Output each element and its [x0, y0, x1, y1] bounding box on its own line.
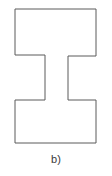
i-beam-outline	[15, 9, 96, 143]
figure-caption-label: b)	[0, 152, 112, 166]
figure-panel: b)	[0, 0, 112, 176]
i-beam-shape-drawing	[0, 0, 112, 176]
